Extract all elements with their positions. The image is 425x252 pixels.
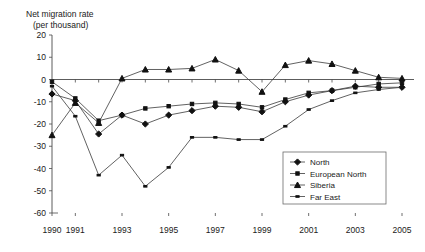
series-far-east-marker-dash: [330, 100, 333, 102]
x-axis-tick-label: 1997: [206, 225, 225, 235]
series-far-east-marker-dash: [120, 154, 123, 156]
x-axis-tick-label: 2001: [299, 225, 318, 235]
y-axis-tick-label: 20: [37, 30, 47, 40]
series-european-north-marker-square: [400, 81, 403, 84]
legend-far-east-marker-dash: [296, 196, 299, 198]
y-axis-tick-label: -30: [34, 141, 47, 151]
chart-container: Net migration rate(per thousand)20100-10…: [0, 0, 425, 252]
series-european-north-marker-square: [120, 113, 123, 116]
legend-north-marker-diamond: [294, 159, 300, 165]
y-axis-tick-label: -20: [34, 119, 47, 129]
series-line-north: [52, 86, 402, 134]
x-axis-tick-label: 1991: [66, 225, 85, 235]
series-far-east-marker-dash: [307, 109, 310, 111]
series-european-north-marker-square: [237, 102, 240, 105]
x-axis-tick-label: 2005: [393, 225, 412, 235]
series-far-east-marker-dash: [190, 137, 193, 139]
series-far-east-marker-dash: [167, 167, 170, 169]
x-axis-tick-label: 1999: [253, 225, 272, 235]
series-far-east-marker-dash: [144, 186, 147, 188]
series-far-east-marker-dash: [400, 86, 403, 88]
net-migration-rate-line-chart: Net migration rate(per thousand)20100-10…: [0, 0, 425, 252]
series-siberia-marker-triangle: [212, 56, 218, 62]
series-north-marker-diamond: [166, 112, 172, 118]
series-european-north-marker-square: [354, 86, 357, 89]
legend-label-far-east: Far East: [310, 193, 341, 202]
legend-label-european-north: European North: [310, 170, 366, 179]
series-far-east-marker-dash: [377, 89, 380, 91]
y-axis-tick-label: -10: [34, 97, 47, 107]
series-siberia-marker-triangle: [236, 68, 242, 74]
series-far-east-marker-dash: [214, 137, 217, 139]
series-far-east-marker-dash: [354, 92, 357, 94]
y-axis-tick-label: 10: [37, 52, 47, 62]
series-far-east-marker-dash: [74, 115, 77, 117]
series-north-marker-diamond: [189, 108, 195, 114]
y-axis-tick-label: -60: [34, 208, 47, 218]
legend-european-north-marker-square: [296, 172, 299, 175]
series-european-north-marker-square: [377, 82, 380, 85]
series-siberia-marker-triangle: [306, 58, 312, 64]
series-european-north-marker-square: [167, 105, 170, 108]
y-axis-tick-label: -40: [34, 164, 47, 174]
series-far-east-marker-dash: [284, 125, 287, 127]
series-siberia-marker-triangle: [49, 132, 55, 138]
series-siberia-marker-triangle: [119, 75, 125, 81]
y-axis-tick-label: -50: [34, 186, 47, 196]
series-european-north-marker-square: [190, 102, 193, 105]
series-european-north-marker-square: [50, 80, 53, 83]
x-axis-tick-label: 1990: [43, 225, 62, 235]
legend-label-siberia: Siberia: [310, 181, 335, 190]
chart-title-line1: Net migration rate: [26, 9, 94, 19]
series-european-north-marker-square: [260, 106, 263, 109]
y-axis-tick-label: 0: [41, 75, 46, 85]
series-north-marker-diamond: [49, 91, 55, 97]
x-axis-tick-label: 2003: [346, 225, 365, 235]
x-axis-tick-label: 1995: [159, 225, 178, 235]
x-axis-tick-label: 1993: [113, 225, 132, 235]
legend-label-north: North: [310, 158, 330, 167]
series-european-north-marker-square: [284, 98, 287, 101]
series-european-north-marker-square: [330, 89, 333, 92]
series-north-marker-diamond: [142, 121, 148, 127]
series-european-north-marker-square: [144, 107, 147, 110]
series-line-siberia: [52, 59, 402, 135]
series-far-east-marker-dash: [237, 139, 240, 141]
series-european-north-marker-square: [307, 91, 310, 94]
series-far-east-marker-dash: [97, 174, 100, 176]
series-far-east-marker-dash: [260, 139, 263, 141]
series-north-marker-diamond: [259, 109, 265, 115]
series-far-east-marker-dash: [50, 85, 53, 87]
chart-title-line2: (per thousand): [33, 20, 88, 30]
series-european-north-marker-square: [214, 101, 217, 104]
